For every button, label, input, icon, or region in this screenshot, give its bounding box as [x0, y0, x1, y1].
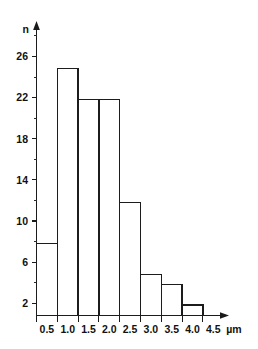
histogram-bar: [182, 305, 203, 315]
y-tick-label: 6: [22, 256, 28, 268]
x-tick-label: 4.5: [206, 323, 221, 335]
histogram-bar: [120, 202, 141, 315]
x-tick-group: [37, 316, 203, 322]
x-tick-label: 1.5: [81, 323, 96, 335]
y-tick-label: 14: [16, 174, 28, 186]
x-tick-label: 2.5: [123, 323, 138, 335]
axis-group: [33, 21, 229, 319]
histogram-bar: [141, 274, 162, 315]
x-tick-label: 3.0: [144, 323, 159, 335]
y-tick-label: 10: [16, 215, 28, 227]
histogram-bar: [57, 68, 78, 315]
bar-group: [37, 68, 203, 315]
x-tick-label: 0.5: [40, 323, 55, 335]
histogram-bar: [99, 99, 120, 315]
x-axis-arrow-icon: [220, 312, 229, 319]
y-tick-label: 22: [16, 91, 28, 103]
x-tick-label: 1.0: [60, 323, 75, 335]
histogram-plot: 2 6 10 14 18 22 26 0.5 1.0 1.5 2.0 2.5 3…: [0, 0, 258, 349]
histogram-figure: 2 6 10 14 18 22 26 0.5 1.0 1.5 2.0 2.5 3…: [0, 0, 258, 349]
y-axis-label: n: [23, 23, 29, 35]
y-tick-label-group: 2 6 10 14 18 22 26: [16, 50, 28, 309]
x-tick-label: 3.5: [164, 323, 179, 335]
x-tick-label: 2.0: [102, 323, 117, 335]
y-tick-label: 2: [22, 297, 28, 309]
y-tick-label: 18: [16, 133, 28, 145]
histogram-bar: [37, 243, 58, 315]
y-axis-arrow-icon: [33, 21, 40, 30]
histogram-bar: [78, 99, 99, 315]
x-tick-label: 4.0: [185, 323, 200, 335]
x-axis-label: µm: [226, 323, 241, 335]
x-tick-label-group: 0.5 1.0 1.5 2.0 2.5 3.0 3.5 4.0 4.5: [40, 323, 221, 335]
histogram-bar: [161, 285, 182, 316]
y-tick-label: 26: [16, 50, 28, 62]
